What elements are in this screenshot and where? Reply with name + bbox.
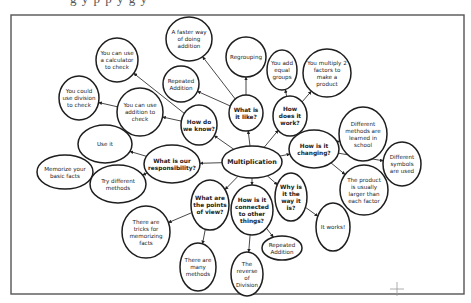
node-different-methods-school: Differentmethods arelearned inschool [339,107,387,161]
node-regrouping: Regrouping [226,37,266,77]
node-label: basic facts [50,173,80,179]
node-label: responsibility? [148,165,196,172]
node-label: Repeated [269,242,296,249]
node-label: methods are [345,128,381,134]
node-how-do-we-know: How dowe know? [181,105,217,145]
node-label: methods [186,271,211,277]
node-what-is-our-responsibility: What is ourresponsibility? [144,145,200,183]
node-label: The product [346,177,382,184]
node-label: addition [178,43,201,49]
node-label: it the [282,191,300,197]
node-try-different-methods: Try differentmethods [90,165,146,203]
node-label: You add [270,60,293,66]
node-label: symbols [390,161,413,168]
node-what-is-it-like: What isit like? [229,95,263,131]
node-label: What is [234,107,259,113]
node-label: make a [317,74,338,80]
node-calculator-check: You can usea calculatorto check [96,38,138,82]
node-faster-way-addition: A faster wayof doingaddition [166,17,212,61]
node-label: Division [236,282,259,288]
node-label: the points [193,202,227,209]
node-label: are used [390,168,415,174]
node-label: many [190,264,206,271]
node-how-is-it-connected: How is itconnectedto otherthings? [231,185,273,235]
node-label: facts [139,240,153,246]
node-label: equal [274,67,290,74]
node-what-are-the-points-of-view: What arethe pointsof view? [191,180,229,230]
node-label: of doing [178,36,201,43]
node-label: factors to [314,67,341,73]
node-it-works: It works! [316,203,350,251]
node-label: larger than [349,191,380,198]
node-label: There are [132,219,160,225]
node-label: a calculator [101,57,134,63]
node-you-add-equal-groups: You addequalgroups [267,50,297,90]
node-repeated-addition-bottom: RepeatedAddition [262,236,302,260]
node-label: way it [281,198,301,205]
node-you-multiply-2-factors: You multiply 2factors tomake aproduct [303,49,351,97]
node-how-does-it-work: Howdoes itwork? [273,96,307,136]
node-label: How is it [238,197,267,203]
node-use-it: Use it [78,125,132,163]
node-repeated-addition-top: RepeatedAddition [163,66,199,102]
node-label: You can use [99,50,134,56]
node-division-check: You coulduse divisionto check [59,76,99,120]
node-label: A faster way [172,29,208,36]
node-label: addition to [125,109,156,115]
node-label: learned in [349,135,377,141]
node-label: How do [187,119,211,125]
node-label: to other [239,211,266,217]
node-product-larger: The productis usuallylarger thaneach fac… [340,165,388,215]
node-label: Multiplication [227,158,277,166]
node-label: things? [240,218,264,225]
node-label: What is our [153,158,191,164]
node-label: memorizing [129,233,163,240]
node-label: is usually [351,184,378,191]
node-label: The [241,261,253,267]
node-label: There are [184,257,212,263]
node-label: changing? [297,150,330,157]
node-label: You could [65,88,93,94]
node-label: What are [195,195,225,201]
node-label: of view? [197,209,224,215]
node-label: to check [67,102,92,108]
node-many-methods: There aremanymethods [180,243,216,291]
node-label: Try different [100,178,136,185]
node-label: to check [105,64,130,70]
node-label: Repeated [168,78,195,85]
node-how-is-it-changing: How is itchanging? [289,130,339,168]
node-label: does it [279,113,302,119]
node-label: product [316,81,338,88]
concept-map: MultiplicationWhat isit like?Howdoes itw… [0,0,471,303]
node-label: we know? [183,126,215,132]
node-label: How is it [300,143,329,149]
node-label: Addition [270,249,294,255]
node-label: tricks for [134,226,159,232]
node-label: Different [351,121,376,127]
node-label: connected [235,204,269,210]
node-label: groups [272,74,291,81]
node-multiplication: Multiplication [222,146,282,178]
node-why-is-it-the-way-it-is: Why isit theway itis? [275,173,307,221]
edge-multiplication-to-what-is-our-responsibility [200,163,222,164]
node-label: is? [287,205,296,211]
node-label: it like? [235,114,257,120]
node-label: Different [390,154,415,160]
node-memorize-basic-facts: Memorize yourbasic facts [37,155,93,189]
node-label: You multiply 2 [306,60,346,67]
node-label: Memorize your [44,166,86,173]
node-label: methods [106,185,131,191]
node-addition-check: You can useaddition tocheck [117,88,163,136]
node-different-symbols: Differentsymbolsare used [383,142,421,186]
node-label: school [354,142,372,148]
node-label: How [283,106,298,112]
node-label: check [132,116,149,122]
node-label: Regrouping [230,54,262,61]
node-label: It works! [321,224,345,230]
node-label: reverse [236,268,258,274]
node-label: You can use [122,102,157,108]
node-label: each factor [348,198,380,204]
node-label: Why is [280,184,302,191]
node-label: use division [62,95,96,101]
node-label: Addition [169,85,193,91]
